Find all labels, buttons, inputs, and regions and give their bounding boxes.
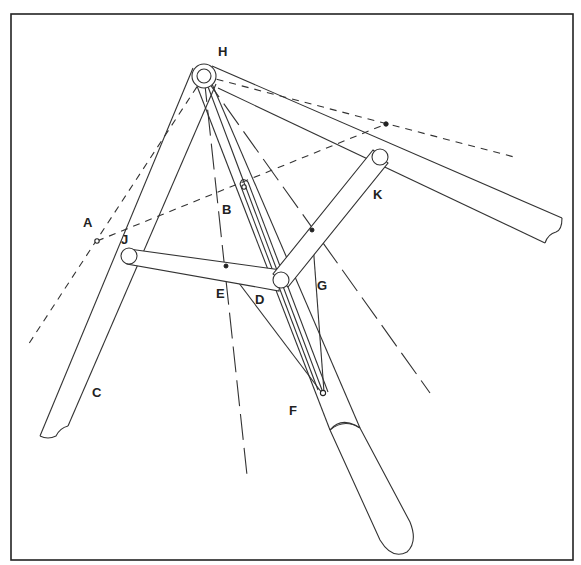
label-g: G — [317, 278, 327, 293]
frame-border — [11, 14, 573, 560]
point-k-dash — [384, 122, 388, 126]
label-k: K — [373, 187, 383, 202]
point-e — [224, 264, 228, 268]
pivot-d — [273, 272, 289, 288]
label-f: F — [289, 403, 297, 418]
label-e: E — [216, 286, 225, 301]
label-h: H — [218, 44, 227, 59]
point-g — [310, 228, 314, 232]
dashed-line-h-to-a — [28, 76, 204, 345]
label-b: B — [222, 202, 231, 217]
pivot-h — [192, 64, 216, 88]
bar-k — [273, 149, 388, 287]
point-b — [242, 185, 246, 189]
bar-j — [121, 248, 281, 291]
point-f — [320, 390, 325, 395]
label-c: C — [92, 385, 102, 400]
label-d: D — [255, 292, 264, 307]
dashed-line-a-to-k — [97, 124, 386, 241]
linkage-diagram: H A B C D E F G J K — [0, 0, 581, 565]
label-a: A — [83, 215, 93, 230]
label-j: J — [121, 232, 128, 247]
point-a — [95, 239, 99, 243]
dashed-line-h-to-right — [204, 76, 518, 158]
